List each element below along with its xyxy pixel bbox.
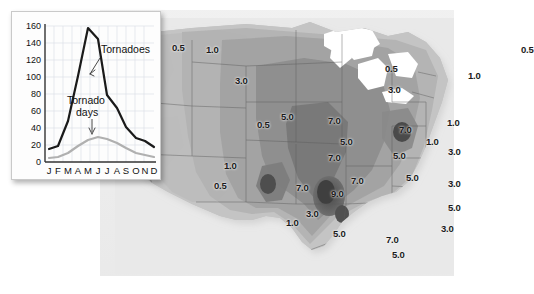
inset-seasonal-chart: 160 140 120 100 80 60 40 20 0 J F M A M … [11, 11, 161, 180]
contour-label: 5.0 [406, 172, 419, 183]
svg-text:100: 100 [26, 72, 41, 82]
contour-label: 1.0 [224, 160, 237, 171]
svg-text:J: J [47, 165, 52, 176]
svg-text:M: M [64, 165, 72, 176]
svg-text:120: 120 [26, 55, 41, 65]
contour-label: 1.0 [468, 70, 481, 81]
contour-label: 3.0 [235, 75, 248, 86]
contour-label: 7.0 [386, 234, 399, 245]
svg-text:80: 80 [31, 89, 41, 99]
contour-label: 5.0 [392, 249, 405, 260]
svg-text:M: M [84, 165, 92, 176]
contour-label: 5.0 [333, 228, 346, 239]
contour-label: 5.0 [448, 202, 461, 213]
svg-text:J: J [105, 165, 110, 176]
contour-label: 3.0 [448, 178, 461, 189]
contour-label: 1.0 [447, 117, 460, 128]
contour-label: 1.0 [206, 44, 219, 55]
svg-text:S: S [123, 165, 129, 176]
contour-label: 0.5 [257, 119, 270, 130]
svg-text:N: N [142, 165, 149, 176]
contour-core-secondary [335, 205, 349, 223]
svg-text:A: A [114, 165, 121, 176]
svg-text:0: 0 [36, 157, 41, 167]
contour-label: 3.0 [388, 84, 401, 95]
svg-text:140: 140 [26, 38, 41, 48]
contour-label: 0.5 [172, 42, 185, 53]
contour-core-7-0-peak-west [260, 174, 276, 194]
svg-text:40: 40 [31, 123, 41, 133]
annotation-tornado-days-line1: Tornado [67, 94, 105, 106]
contour-label: 3.0 [306, 208, 319, 219]
contour-label: 5.0 [281, 111, 294, 122]
contour-label: 7.0 [296, 182, 309, 193]
svg-text:160: 160 [26, 21, 41, 31]
contour-label: 5.0 [393, 150, 406, 161]
contour-label: 0.5 [385, 63, 398, 74]
contour-label: 7.0 [328, 115, 341, 126]
contour-label: 5.0 [340, 136, 353, 147]
contour-label: 3.0 [441, 223, 454, 234]
contour-label: 9.0 [331, 188, 344, 199]
svg-text:O: O [132, 165, 139, 176]
contour-label: 7.0 [399, 124, 412, 135]
contour-label: 1.0 [286, 217, 299, 228]
contour-label: 1.0 [426, 136, 439, 147]
svg-text:60: 60 [31, 106, 41, 116]
contour-label: 0.5 [214, 180, 227, 191]
contour-label: 7.0 [351, 175, 364, 186]
svg-text:A: A [75, 165, 82, 176]
contour-label: 3.0 [448, 146, 461, 157]
svg-text:20: 20 [31, 140, 41, 150]
svg-text:D: D [151, 165, 158, 176]
annotation-tornado-days-line2: days [76, 106, 98, 118]
svg-text:F: F [55, 165, 61, 176]
annotation-tornadoes-label: Tornadoes [101, 43, 150, 55]
contour-label: 0.5 [521, 44, 534, 55]
contour-label: 7.0 [328, 152, 341, 163]
svg-text:J: J [96, 165, 101, 176]
